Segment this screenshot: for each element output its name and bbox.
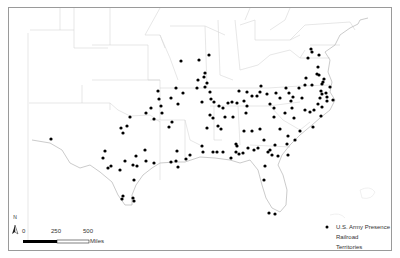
army-presence-dot bbox=[325, 99, 328, 102]
army-presence-dot bbox=[234, 150, 237, 153]
army-presence-dot bbox=[316, 102, 319, 105]
army-presence-dot bbox=[169, 96, 172, 99]
army-presence-dot bbox=[273, 212, 276, 215]
army-presence-dot bbox=[188, 153, 191, 156]
army-presence-dot bbox=[297, 86, 300, 89]
army-presence-dot bbox=[131, 196, 134, 199]
army-presence-dot bbox=[230, 100, 233, 103]
army-presence-dot bbox=[259, 84, 262, 87]
army-presence-dot bbox=[143, 148, 146, 151]
army-presence-dot bbox=[221, 106, 224, 109]
scale-tick-250: 250 bbox=[51, 228, 61, 234]
army-presence-dot bbox=[202, 75, 205, 78]
army-presence-dot bbox=[292, 116, 295, 119]
army-presence-dot bbox=[49, 137, 52, 140]
army-presence-dot bbox=[320, 92, 323, 95]
army-presence-dot bbox=[200, 144, 203, 147]
army-presence-dot bbox=[217, 104, 220, 107]
army-presence-dot bbox=[300, 96, 303, 99]
army-presence-dot bbox=[268, 148, 271, 151]
army-presence-dot bbox=[200, 100, 203, 103]
army-presence-dot bbox=[109, 164, 112, 167]
army-presence-dot bbox=[118, 168, 121, 171]
army-presence-dot bbox=[174, 159, 177, 162]
army-presence-dot bbox=[203, 71, 206, 74]
army-presence-dot bbox=[250, 94, 253, 97]
army-presence-dot bbox=[121, 131, 124, 134]
army-presence-dot bbox=[211, 116, 214, 119]
army-presence-dot bbox=[242, 129, 245, 132]
legend-label: Railroad bbox=[336, 234, 358, 240]
army-presence-dot bbox=[268, 102, 271, 105]
army-presence-dot bbox=[223, 115, 226, 118]
army-presence-dot bbox=[196, 78, 199, 81]
army-presence-dot bbox=[134, 154, 137, 157]
army-presence-dot bbox=[159, 104, 162, 107]
army-presence-dot bbox=[120, 197, 123, 200]
legend: U.S. Army Presence Railroad Territories bbox=[318, 222, 390, 252]
army-presence-dot bbox=[242, 99, 245, 102]
army-presence-points bbox=[49, 47, 334, 215]
army-presence-dot bbox=[258, 127, 261, 130]
scale-unit: Miles bbox=[90, 238, 104, 244]
army-presence-dot bbox=[276, 154, 279, 157]
army-presence-dot bbox=[106, 166, 109, 169]
coastline bbox=[32, 18, 368, 212]
army-presence-dot bbox=[241, 151, 244, 154]
army-presence-dot bbox=[167, 125, 170, 128]
army-presence-dot bbox=[229, 156, 232, 159]
army-presence-dot bbox=[132, 199, 135, 202]
army-presence-dot bbox=[317, 53, 320, 56]
army-presence-dot bbox=[101, 156, 104, 159]
army-presence-dot bbox=[285, 142, 288, 145]
army-presence-dot bbox=[270, 153, 273, 156]
army-presence-dot bbox=[322, 77, 325, 80]
legend-item-railroad: Railroad bbox=[318, 232, 390, 242]
army-presence-dot bbox=[205, 81, 208, 84]
army-presence-dot bbox=[215, 150, 218, 153]
army-presence-dot bbox=[160, 111, 163, 114]
army-presence-dot bbox=[152, 117, 155, 120]
army-presence-dot bbox=[181, 91, 184, 94]
army-presence-dot bbox=[262, 178, 265, 181]
army-presence-dot bbox=[272, 106, 275, 109]
map-canvas bbox=[0, 0, 400, 258]
army-presence-dot bbox=[309, 47, 312, 50]
army-presence-dot bbox=[255, 94, 258, 97]
army-presence-dot bbox=[132, 178, 135, 181]
army-presence-dot bbox=[303, 108, 306, 111]
army-presence-dot bbox=[179, 59, 182, 62]
army-presence-dot bbox=[319, 114, 322, 117]
army-presence-dot bbox=[286, 153, 289, 156]
army-presence-dot bbox=[320, 105, 323, 108]
army-presence-dot bbox=[319, 89, 322, 92]
army-presence-dot bbox=[328, 85, 331, 88]
army-presence-dot bbox=[278, 96, 281, 99]
army-presence-dot bbox=[226, 101, 229, 104]
army-presence-dot bbox=[212, 100, 215, 103]
state-boundaries bbox=[28, 8, 355, 240]
army-presence-dot bbox=[306, 56, 309, 59]
army-presence-dot bbox=[235, 101, 238, 104]
army-presence-dot bbox=[208, 90, 211, 93]
army-presence-dot bbox=[201, 150, 204, 153]
army-presence-dot bbox=[176, 102, 179, 105]
army-presence-dot bbox=[195, 86, 198, 89]
army-presence-dot bbox=[320, 82, 323, 85]
army-presence-dot bbox=[197, 58, 200, 61]
army-presence-dot bbox=[125, 124, 128, 127]
army-presence-dot bbox=[316, 65, 319, 68]
army-presence-dot bbox=[235, 144, 238, 147]
army-presence-dot bbox=[211, 150, 214, 153]
army-presence-dot bbox=[207, 53, 210, 56]
army-presence-dot bbox=[152, 161, 155, 164]
army-presence-dot bbox=[216, 124, 219, 127]
legend-item-army-presence: U.S. Army Presence bbox=[318, 222, 390, 232]
army-presence-dot bbox=[131, 163, 134, 166]
army-presence-dot bbox=[135, 164, 138, 167]
army-presence-dot bbox=[303, 83, 306, 86]
army-presence-dot bbox=[128, 115, 131, 118]
army-presence-dot bbox=[205, 126, 208, 129]
army-presence-dot bbox=[287, 91, 290, 94]
army-presence-dot bbox=[175, 149, 178, 152]
